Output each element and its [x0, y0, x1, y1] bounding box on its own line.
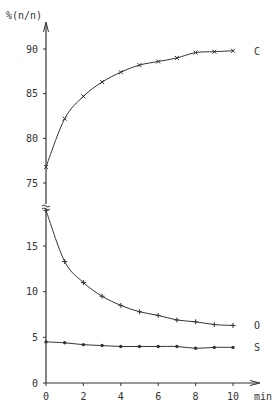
series-label-C: C: [254, 46, 260, 57]
plus-marker-icon: [193, 319, 198, 324]
y-tick-label: 0: [32, 378, 38, 389]
dot-marker-icon: [119, 345, 122, 348]
dot-marker-icon: [194, 347, 197, 350]
series-label-S: S: [254, 342, 260, 353]
x-marker-icon: [81, 94, 85, 98]
x-tick-label: 2: [80, 391, 86, 402]
plus-marker-icon: [174, 317, 179, 322]
x-tick-label: 8: [193, 391, 199, 402]
dot-marker-icon: [100, 344, 103, 347]
plus-marker-icon: [231, 323, 236, 328]
dot-marker-icon: [138, 345, 141, 348]
x-marker-icon: [63, 117, 67, 121]
x-marker-icon: [119, 70, 123, 74]
plus-marker-icon: [212, 322, 217, 327]
y-tick-label: 80: [26, 133, 38, 144]
dot-marker-icon: [82, 343, 85, 346]
plus-marker-icon: [62, 259, 67, 264]
plus-marker-icon: [44, 208, 49, 213]
dot-marker-icon: [44, 340, 47, 343]
plus-marker-icon: [137, 309, 142, 314]
plus-marker-icon: [156, 313, 161, 318]
dot-marker-icon: [63, 341, 66, 344]
x-tick-label: 4: [118, 391, 124, 402]
dot-marker-icon: [213, 346, 216, 349]
plus-marker-icon: [100, 294, 105, 299]
series-label-O: O: [254, 320, 260, 331]
series-group: [44, 49, 236, 350]
plus-marker-icon: [118, 303, 123, 308]
axes: [42, 22, 260, 386]
y-axis-label: %(n/n): [6, 10, 42, 21]
series-O-line: [46, 210, 233, 325]
x-tick-label: 0: [43, 391, 49, 402]
y-tick-label: 15: [26, 241, 38, 252]
y-tick-label: 85: [26, 88, 38, 99]
x-axis-label: min: [254, 391, 272, 402]
x-marker-icon: [100, 80, 104, 84]
y-tick-label: 10: [26, 286, 38, 297]
dot-marker-icon: [157, 345, 160, 348]
y-tick-label: 75: [26, 178, 38, 189]
x-tick-label: 10: [227, 391, 239, 402]
x-tick-label: 6: [155, 391, 161, 402]
y-tick-label: 90: [26, 44, 38, 55]
series-C-line: [46, 51, 233, 167]
y-tick-label: 5: [32, 332, 38, 343]
line-chart: 758085900510150246810min%(n/n)COS: [0, 0, 274, 414]
dot-marker-icon: [231, 346, 234, 349]
dot-marker-icon: [175, 345, 178, 348]
